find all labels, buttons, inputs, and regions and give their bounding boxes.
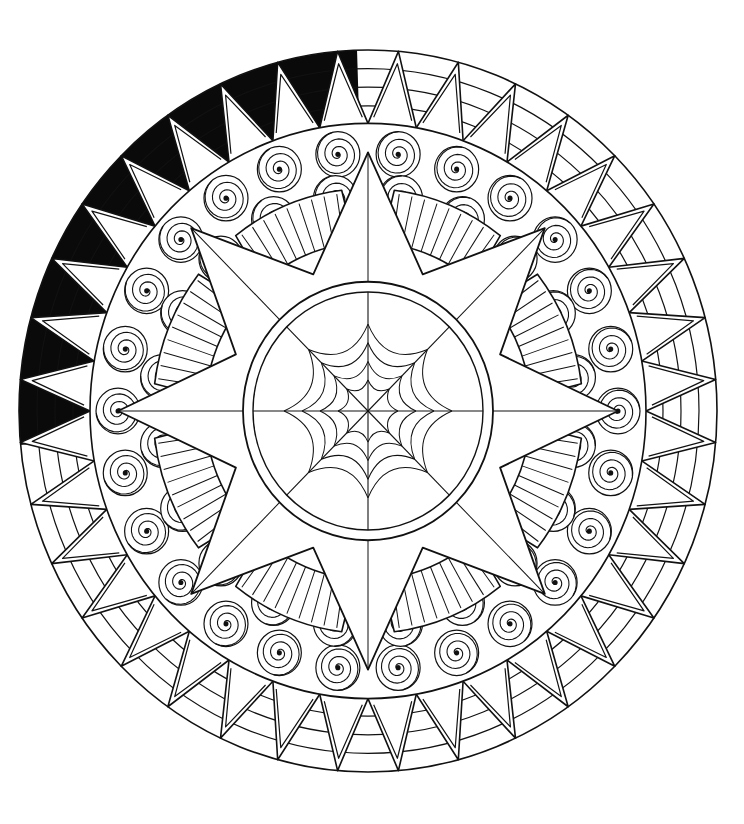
swirl-dot xyxy=(396,152,401,157)
swirl-dot xyxy=(123,470,128,475)
swirl-dot xyxy=(587,288,592,293)
swirl-dot xyxy=(178,237,183,242)
swirl-dot xyxy=(144,529,149,534)
mandala-artwork xyxy=(0,0,744,824)
swirl-dot xyxy=(454,650,459,655)
swirl-dot xyxy=(508,621,513,626)
swirl-dot xyxy=(277,650,282,655)
swirl-dot xyxy=(123,347,128,352)
swirl-dot xyxy=(608,347,613,352)
swirl-dot xyxy=(608,470,613,475)
swirl-dot xyxy=(396,665,401,670)
swirl-dot xyxy=(223,196,228,201)
swirl-dot xyxy=(277,167,282,172)
swirl-dot xyxy=(508,196,513,201)
swirl-dot xyxy=(553,580,558,585)
swirl-dot xyxy=(335,665,340,670)
swirl-dot xyxy=(587,529,592,534)
swirl-dot xyxy=(335,152,340,157)
swirl-dot xyxy=(553,237,558,242)
swirl-dot xyxy=(223,621,228,626)
mandala-group xyxy=(19,50,717,772)
swirl-dot xyxy=(178,580,183,585)
swirl-dot xyxy=(454,167,459,172)
swirl-dot xyxy=(144,288,149,293)
